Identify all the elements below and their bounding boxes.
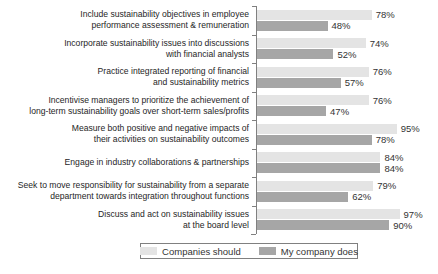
- my-company-does-bar: [257, 106, 326, 116]
- my-company-does-bar: [257, 163, 380, 173]
- companies-should-value: 76%: [373, 95, 392, 106]
- category-row: Incentivise managers to prioritize the a…: [0, 92, 438, 121]
- my-company-does-value: 62%: [352, 191, 371, 202]
- category-bars: 95% 78%: [256, 120, 438, 149]
- companies-should-bar-line: 76%: [257, 95, 438, 105]
- category-label: Seek to move responsibility for sustaina…: [0, 177, 256, 206]
- companies-should-value: 78%: [376, 9, 395, 20]
- companies-should-bar: [257, 38, 366, 48]
- my-company-does-bar-line: 47%: [257, 106, 438, 116]
- category-label-line: with financial analysts: [0, 49, 249, 60]
- category-label-line: Practice integrated reporting of financi…: [0, 66, 249, 77]
- companies-should-bar: [257, 10, 372, 20]
- my-company-does-value: 78%: [376, 134, 395, 145]
- my-company-does-swatch: [259, 247, 276, 255]
- companies-should-bar-line: 76%: [257, 67, 438, 77]
- companies-should-value: 79%: [377, 180, 396, 191]
- companies-should-legend-label: Companies should: [162, 246, 241, 257]
- companies-should-value: 97%: [404, 209, 423, 220]
- companies-should-bar: [257, 95, 369, 105]
- category-bars: 78% 48%: [256, 6, 438, 35]
- category-bars: 76% 57%: [256, 63, 438, 92]
- category-bars: 79% 62%: [256, 177, 438, 206]
- category-label: Discuss and act on sustainability issues…: [0, 206, 256, 235]
- category-label: Measure both positive and negative impac…: [0, 120, 256, 149]
- category-label-line: Include sustainability objectives in emp…: [0, 9, 249, 20]
- companies-should-bar-line: 97%: [257, 209, 438, 219]
- companies-should-value: 84%: [384, 152, 403, 163]
- my-company-does-bar-line: 48%: [257, 21, 438, 31]
- companies-should-bar-line: 78%: [257, 10, 438, 20]
- companies-should-bar-line: 74%: [257, 38, 438, 48]
- category-row: Practice integrated reporting of financi…: [0, 63, 438, 92]
- category-label-line: Seek to move responsibility for sustaina…: [0, 180, 249, 191]
- category-row: Seek to move responsibility for sustaina…: [0, 177, 438, 206]
- my-company-does-bar-line: 62%: [257, 192, 438, 202]
- category-label-line: their activities on sustainability outco…: [0, 134, 249, 145]
- my-company-does-value: 57%: [345, 77, 364, 88]
- bar-chart: Include sustainability objectives in emp…: [0, 0, 438, 274]
- companies-should-value: 76%: [373, 66, 392, 77]
- my-company-does-bar-line: 78%: [257, 135, 438, 145]
- my-company-does-value: 52%: [337, 49, 356, 60]
- companies-should-bar-line: 95%: [257, 124, 438, 134]
- my-company-does-bar-line: 84%: [257, 163, 438, 173]
- my-company-does-bar-line: 52%: [257, 49, 438, 59]
- my-company-does-value: 84%: [384, 163, 403, 174]
- category-label-line: Incentivise managers to prioritize the a…: [0, 95, 249, 106]
- my-company-does-bar: [257, 192, 348, 202]
- my-company-does-bar: [257, 21, 328, 31]
- companies-should-bar: [257, 67, 369, 77]
- legend-item-my-company-does: My company does: [259, 246, 358, 257]
- axis-bottom-tick: [251, 234, 256, 235]
- category-row: Measure both positive and negative impac…: [0, 120, 438, 149]
- category-bars: 84% 84%: [256, 149, 438, 178]
- my-company-does-bar: [257, 220, 389, 230]
- companies-should-bar: [257, 209, 400, 219]
- my-company-does-bar-line: 90%: [257, 220, 438, 230]
- my-company-does-value: 47%: [330, 106, 349, 117]
- category-label: Incorporate sustainability issues into d…: [0, 35, 256, 64]
- category-bars: 76% 47%: [256, 92, 438, 121]
- my-company-does-legend-label: My company does: [281, 246, 358, 257]
- category-row: Include sustainability objectives in emp…: [0, 6, 438, 35]
- companies-should-bar: [257, 124, 397, 134]
- category-row: Incorporate sustainability issues into d…: [0, 35, 438, 64]
- my-company-does-bar: [257, 78, 341, 88]
- legend-item-companies-should: Companies should: [140, 246, 241, 257]
- companies-should-bar: [257, 152, 380, 162]
- category-label: Practice integrated reporting of financi…: [0, 63, 256, 92]
- legend: Companies should My company does: [140, 243, 358, 259]
- category-label: Include sustainability objectives in emp…: [0, 6, 256, 35]
- category-row: Engage in industry collaborations & part…: [0, 149, 438, 178]
- category-bars: 74% 52%: [256, 35, 438, 64]
- category-label-line: long-term sustainability goals over shor…: [0, 106, 249, 117]
- my-company-does-bar-line: 57%: [257, 78, 438, 88]
- category-label: Incentivise managers to prioritize the a…: [0, 92, 256, 121]
- category-label-line: and sustainability metrics: [0, 77, 249, 88]
- my-company-does-value: 90%: [393, 220, 412, 231]
- category-row: Discuss and act on sustainability issues…: [0, 206, 438, 235]
- category-label-line: Engage in industry collaborations & part…: [0, 157, 249, 168]
- chart-rows: Include sustainability objectives in emp…: [0, 6, 438, 234]
- companies-should-swatch: [140, 247, 157, 255]
- companies-should-value: 95%: [401, 123, 420, 134]
- category-label-line: performance assessment & remuneration: [0, 20, 249, 31]
- companies-should-value: 74%: [370, 38, 389, 49]
- category-label-line: Incorporate sustainability issues into d…: [0, 38, 249, 49]
- my-company-does-bar: [257, 135, 372, 145]
- category-bars: 97% 90%: [256, 206, 438, 235]
- companies-should-bar-line: 79%: [257, 181, 438, 191]
- category-label-line: Measure both positive and negative impac…: [0, 123, 249, 134]
- category-label-line: department towards integration throughou…: [0, 191, 249, 202]
- category-label-line: at the board level: [0, 220, 249, 231]
- my-company-does-bar: [257, 49, 333, 59]
- companies-should-bar-line: 84%: [257, 152, 438, 162]
- category-label: Engage in industry collaborations & part…: [0, 149, 256, 178]
- my-company-does-value: 48%: [332, 20, 351, 31]
- companies-should-bar: [257, 181, 373, 191]
- category-label-line: Discuss and act on sustainability issues: [0, 209, 249, 220]
